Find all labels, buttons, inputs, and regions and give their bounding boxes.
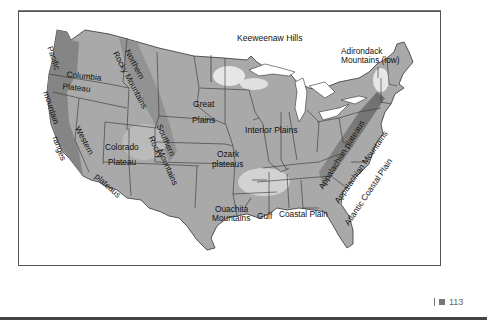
- label-ozark-plateaus: plateaus: [212, 160, 243, 169]
- label-keeweenaw-hills: Keeweenaw Hills: [237, 34, 302, 43]
- label-great-plains: Plains: [192, 116, 215, 125]
- map-figure: Pacific mountain ranges Columbia Plateau…: [18, 11, 441, 266]
- label-colorado: Colorado: [105, 143, 139, 152]
- label-great: Great: [193, 100, 215, 109]
- label-ozark: Ozark: [217, 150, 239, 159]
- page-number: 113: [434, 297, 463, 307]
- label-ouachita-mountains: Mountains: [212, 214, 250, 223]
- ozark-highlight: [238, 168, 290, 196]
- page-marker-bar: [434, 298, 435, 306]
- page-marker-square-icon: [439, 299, 445, 305]
- label-gulf: Gulf: [257, 212, 272, 221]
- label-interior-plains: Interior Plains: [245, 126, 298, 135]
- page-number-text: 113: [449, 297, 463, 307]
- bottom-rule: [0, 317, 487, 320]
- label-colorado-plateau: Plateau: [108, 158, 136, 167]
- label-adirondack-mountains: Mountains (low): [341, 56, 400, 65]
- label-coastal-plain: Coastal Plain: [279, 210, 328, 219]
